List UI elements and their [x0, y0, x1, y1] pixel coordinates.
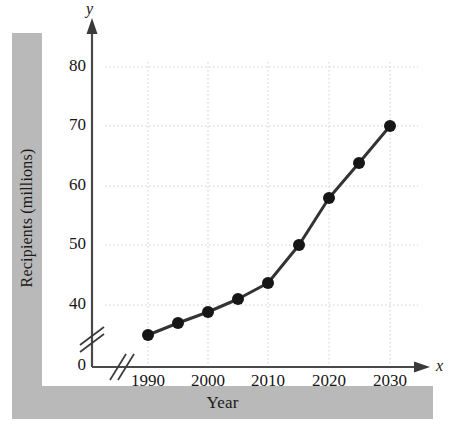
- data-point: [262, 277, 274, 289]
- y-tick-label-0: 0: [52, 355, 86, 375]
- y-axis: [87, 18, 98, 367]
- x-tick-label-2030: 2030: [359, 371, 421, 391]
- data-point-markers: [142, 120, 396, 341]
- x-tick-label-2010: 2010: [237, 371, 299, 391]
- data-point: [172, 317, 184, 329]
- y-tick-label-70: 70: [52, 115, 86, 135]
- y-axis-variable-letter: y: [86, 0, 93, 18]
- data-point: [353, 157, 365, 169]
- x-tick-label-2000: 2000: [177, 371, 239, 391]
- y-tick-label-50: 50: [52, 234, 86, 254]
- y-tick-label-80: 80: [52, 56, 86, 76]
- data-point: [323, 192, 335, 204]
- data-point: [384, 120, 396, 132]
- data-point: [202, 306, 214, 318]
- data-series-line: [148, 126, 390, 335]
- data-point: [232, 293, 244, 305]
- y-tick-label-60: 60: [52, 175, 86, 195]
- y-tick-label-40: 40: [52, 294, 86, 314]
- x-axis-variable-letter: x: [436, 357, 443, 375]
- x-tick-label-2020: 2020: [298, 371, 360, 391]
- chart-figure: Recipients (millions) Year: [0, 0, 453, 435]
- data-point: [293, 239, 305, 251]
- x-tick-label-1990: 1990: [117, 371, 179, 391]
- horizontal-gridlines: [105, 67, 418, 305]
- data-point: [142, 329, 154, 341]
